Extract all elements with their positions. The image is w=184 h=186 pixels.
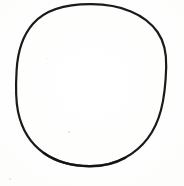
image-canvas (0, 0, 184, 186)
circle-figure (0, 0, 184, 186)
circle-outline-shade (44, 153, 125, 166)
circle-outline-path (16, 4, 166, 166)
